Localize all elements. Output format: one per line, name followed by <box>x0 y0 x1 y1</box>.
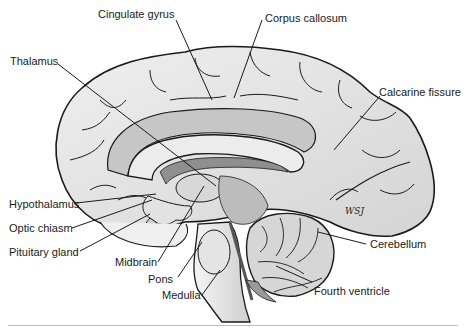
label-midbrain: Midbrain <box>115 256 157 268</box>
thalamus-shape <box>176 174 224 202</box>
label-fourth-ventricle: Fourth ventricle <box>314 285 390 297</box>
label-cerebellum: Cerebellum <box>370 238 426 250</box>
bottom-divider <box>8 325 458 326</box>
pons-shape <box>198 230 230 274</box>
label-optic-chiasm: Optic chiasm <box>9 222 73 234</box>
cerebellum-shape <box>247 213 334 296</box>
brain-illustration <box>0 0 468 332</box>
label-cingulate-gyrus: Cingulate gyrus <box>98 8 174 20</box>
label-pituitary-gland: Pituitary gland <box>9 246 79 258</box>
label-corpus-callosum: Corpus callosum <box>265 12 347 24</box>
label-thalamus: Thalamus <box>10 55 58 67</box>
artist-signature: WSJ <box>345 206 364 216</box>
label-medulla: Medulla <box>162 289 201 301</box>
label-pons: Pons <box>148 273 173 285</box>
label-calcarine-fissure: Calcarine fissure <box>379 86 461 98</box>
brain-diagram: Cingulate gyrus Corpus callosum Thalamus… <box>0 0 468 332</box>
label-hypothalamus: Hypothalamus <box>9 198 79 210</box>
